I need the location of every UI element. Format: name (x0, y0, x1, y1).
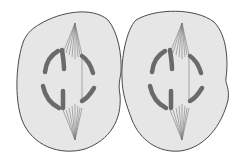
diagram-canvas (0, 0, 241, 164)
mitosis-diagram: Two adjacent cells in mitosis (anaphase)… (0, 0, 241, 164)
right-cell (122, 11, 229, 151)
left-cell-membrane (17, 12, 121, 151)
right-cell-membrane (122, 11, 229, 151)
left-cell (17, 12, 121, 151)
